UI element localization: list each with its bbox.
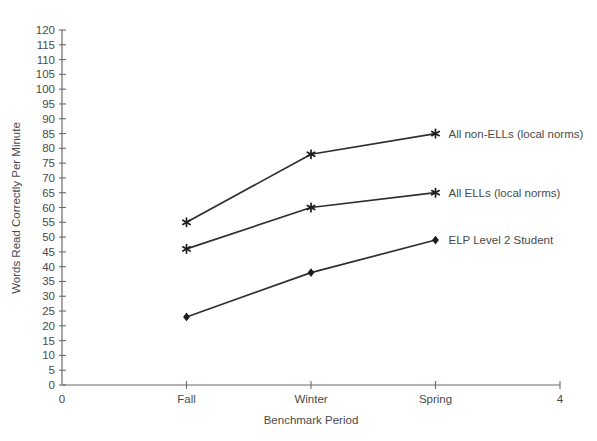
y-axis-title: Words Read Correctly Per Minute <box>10 122 22 294</box>
y-tick-label: 65 <box>42 187 55 199</box>
y-tick-label: 120 <box>36 24 55 36</box>
y-tick-label: 55 <box>42 216 55 228</box>
series-2: ELP Level 2 Student <box>183 234 554 321</box>
series-end-label: All ELLs (local norms) <box>449 187 561 199</box>
y-tick-label: 60 <box>42 202 55 214</box>
series-end-label: All non-ELLs (local norms) <box>449 128 584 140</box>
y-tick-label: 35 <box>42 275 55 287</box>
plot-series: All non-ELLs (local norms)All ELLs (loca… <box>183 128 584 322</box>
y-tick-label: 70 <box>42 172 55 184</box>
y-tick-label: 30 <box>42 290 55 302</box>
diamond-marker <box>308 268 315 277</box>
y-tick-label: 5 <box>49 364 55 376</box>
x-tick-label: Fall <box>177 393 196 405</box>
y-tick-label: 100 <box>36 83 55 95</box>
y-tick-label: 75 <box>42 157 55 169</box>
y-tick-label: 80 <box>42 142 55 154</box>
y-tick-label: 40 <box>42 261 55 273</box>
x-axis: 0FallWinterSpring4 <box>59 381 564 405</box>
y-tick-label: 0 <box>49 379 55 391</box>
y-tick-label: 20 <box>42 320 55 332</box>
series-line <box>187 240 436 317</box>
x-tick-label: Spring <box>419 393 452 405</box>
y-tick-label: 90 <box>42 113 55 125</box>
y-tick-label: 45 <box>42 246 55 258</box>
diamond-marker <box>432 236 439 245</box>
y-tick-label: 95 <box>42 98 55 110</box>
x-tick-label: Winter <box>294 393 327 405</box>
x-axis-title: Benchmark Period <box>264 414 359 426</box>
y-tick-label: 115 <box>37 39 55 51</box>
x-tick-label: 4 <box>557 393 564 405</box>
y-tick-label: 110 <box>37 54 55 66</box>
diamond-marker <box>183 313 190 322</box>
line-chart-figure: 0510152025303540455055606570758085909510… <box>0 0 597 441</box>
y-tick-label: 10 <box>42 349 55 361</box>
y-tick-label: 25 <box>42 305 55 317</box>
x-tick-label: 0 <box>59 393 65 405</box>
y-axis: 0510152025303540455055606570758085909510… <box>36 24 66 391</box>
series-0: All non-ELLs (local norms) <box>183 128 584 227</box>
y-tick-label: 105 <box>36 68 55 80</box>
chart-svg: 0510152025303540455055606570758085909510… <box>0 0 597 441</box>
y-tick-label: 50 <box>42 231 55 243</box>
series-end-label: ELP Level 2 Student <box>449 234 554 246</box>
y-tick-label: 85 <box>42 128 55 140</box>
y-tick-label: 15 <box>42 335 55 347</box>
star-marker <box>183 218 190 226</box>
